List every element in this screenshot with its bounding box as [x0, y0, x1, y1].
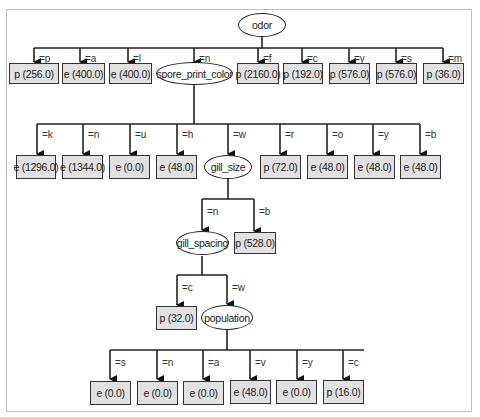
edge-label: =n	[88, 129, 99, 140]
leaf-node: p (16.0)	[323, 380, 364, 404]
leaf-node: p (576.0)	[329, 63, 370, 84]
node-gill-size: gill_size	[204, 155, 252, 179]
edge-label: =r	[285, 129, 294, 140]
node-odor: odor	[238, 13, 286, 37]
edge-label: =k	[42, 129, 52, 140]
leaf-node: p (576.0)	[376, 63, 417, 84]
leaf-node: e (48.0)	[156, 155, 197, 179]
leaf-node: e (0.0)	[276, 380, 317, 404]
leaf-node: p (528.0)	[234, 232, 276, 254]
leaf-node: p (256.0)	[9, 63, 59, 84]
edge-label: =n	[207, 206, 218, 217]
leaf-node: e (0.0)	[137, 381, 178, 405]
node-gill-spacing: gill_spacing	[176, 231, 229, 255]
edge-label: =y	[378, 129, 388, 140]
leaf-node: e (48.0)	[354, 155, 395, 179]
leaf-node: e (48.0)	[307, 155, 348, 179]
edge-label: =h	[182, 129, 193, 140]
node-spore-print-color: spore_print_color	[156, 62, 233, 85]
edge-label: =v	[255, 357, 265, 368]
edge-label: =b	[259, 206, 270, 217]
leaf-node: e (48.0)	[230, 380, 271, 404]
edge-label: =w	[233, 129, 246, 140]
leaf-node: e (400.0)	[109, 63, 152, 84]
node-population: population	[201, 305, 253, 330]
edge-label: =n	[162, 357, 173, 368]
edge-label: =u	[135, 129, 146, 140]
leaf-node: e (1344.0)	[62, 155, 103, 179]
edge-label: =o	[332, 129, 343, 140]
leaf-node: p (2160.0)	[237, 63, 279, 84]
leaf-node: p (72.0)	[260, 155, 301, 179]
edge-label: =w	[232, 282, 245, 293]
leaf-node: e (1296.0)	[16, 155, 56, 179]
leaf-node: p (36.0)	[423, 63, 464, 84]
leaf-node: e (0.0)	[109, 155, 150, 179]
edge-label: =y	[302, 357, 312, 368]
edge-label: =a	[208, 357, 219, 368]
leaf-node: p (32.0)	[156, 306, 197, 330]
leaf-node: e (400.0)	[62, 63, 105, 84]
edge-label: =c	[348, 357, 358, 368]
edge-label: =s	[115, 357, 125, 368]
edge-label: =c	[182, 282, 192, 293]
leaf-node: e (48.0)	[400, 155, 441, 179]
leaf-node: e (0.0)	[90, 381, 131, 405]
leaf-node: e (0.0)	[183, 381, 224, 405]
edge-label: =b	[425, 129, 436, 140]
leaf-node: p (192.0)	[283, 63, 323, 84]
